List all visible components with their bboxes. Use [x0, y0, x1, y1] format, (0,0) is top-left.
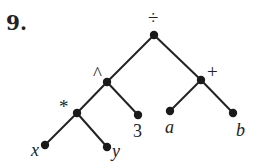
node-label-b: b	[236, 120, 245, 140]
tree-node-b	[229, 109, 237, 117]
node-label-mul: *	[59, 96, 69, 117]
tree-node-x	[41, 141, 49, 149]
node-label-a: a	[165, 117, 174, 137]
tree-edge-pow-three	[107, 82, 138, 115]
tree-edge-plus-a	[170, 80, 201, 111]
tree-node-pow	[103, 78, 111, 86]
expression-tree-diagram: 9. ÷^+*3abxy	[0, 0, 256, 164]
tree-edge-pow-mul	[77, 82, 107, 113]
tree-edge-mul-x	[45, 113, 77, 145]
tree-node-mul	[73, 109, 81, 117]
node-label-x: x	[30, 140, 39, 160]
tree-node-a	[166, 107, 174, 115]
node-label-y: y	[110, 141, 120, 161]
tree-edge-div-plus	[154, 35, 201, 80]
tree-edge-mul-y	[77, 113, 107, 147]
tree-labels: ÷^+*3abxy	[30, 7, 245, 161]
tree-edge-div-pow	[107, 35, 154, 82]
tree-node-y	[103, 143, 111, 151]
node-label-three: 3	[133, 121, 142, 141]
node-label-div: ÷	[148, 7, 158, 28]
node-label-plus: +	[207, 61, 218, 82]
tree-node-three	[134, 111, 142, 119]
problem-number: 9.	[6, 11, 27, 35]
tree-node-div	[150, 31, 158, 39]
tree-edge-plus-b	[201, 80, 233, 113]
node-label-pow: ^	[93, 63, 102, 84]
tree-node-plus	[197, 76, 205, 84]
